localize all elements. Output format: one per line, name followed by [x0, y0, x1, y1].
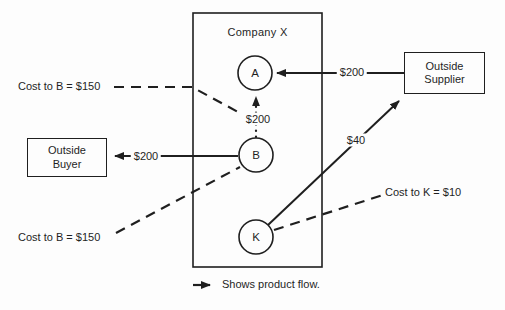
cost-to-b-top-label: Cost to B = $150 — [18, 80, 100, 93]
cost-to-k-dashed-line — [274, 194, 386, 230]
price-k-to-supplier: $40 — [344, 134, 368, 147]
price-b-to-buyer: $200 — [131, 150, 161, 163]
company-x-title: Company X — [193, 26, 322, 39]
price-supplier-to-a: $200 — [337, 66, 367, 79]
outside-supplier-label-line2: Supplier — [424, 73, 464, 87]
cost-to-k-label: Cost to K = $10 — [385, 186, 461, 199]
outside-buyer-label-line2: Buyer — [53, 158, 82, 172]
outside-buyer-label-line1: Outside — [48, 144, 86, 158]
node-k-label: K — [252, 231, 260, 244]
outside-supplier-label-line1: Outside — [426, 60, 464, 74]
outside-supplier-box: Outside Supplier — [404, 52, 485, 94]
diagram-canvas: Company X A B K Outside Buyer Outside Su… — [0, 0, 505, 310]
cost-to-b-bottom-dashed-line — [116, 167, 240, 233]
node-b-label: B — [252, 149, 260, 162]
cost-to-b-bottom-label: Cost to B = $150 — [18, 231, 100, 244]
cost-to-b-top-dashed-line — [114, 87, 238, 112]
outside-buyer-box: Outside Buyer — [27, 138, 107, 177]
price-b-to-a: $200 — [243, 113, 273, 126]
node-a-label: A — [251, 67, 259, 80]
flow-arrow-k-to-supplier — [268, 101, 399, 225]
legend-caption: Shows product flow. — [222, 278, 320, 291]
